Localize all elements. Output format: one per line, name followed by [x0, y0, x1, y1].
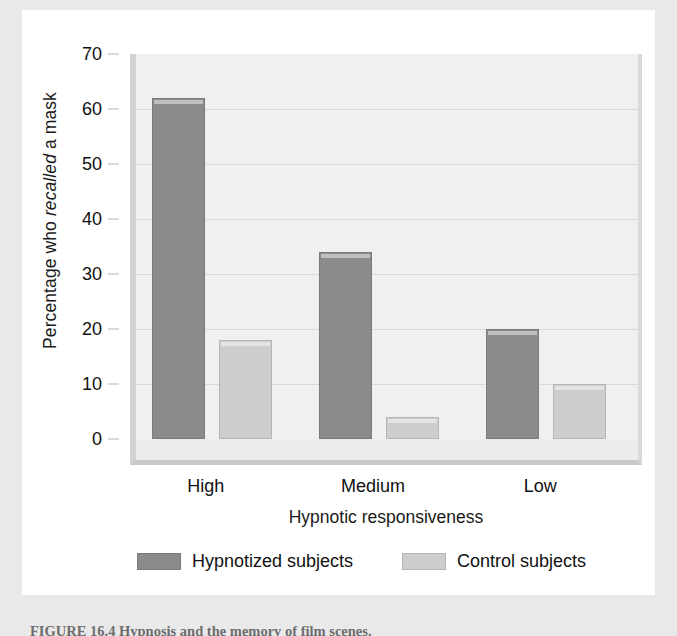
gridline [136, 274, 638, 275]
plot-area [130, 54, 642, 439]
y-axis-title-italic: recalled [40, 154, 60, 216]
y-axis-tick-label: 0 [58, 429, 102, 450]
y-axis-tick-mark [108, 329, 119, 330]
gridline [136, 329, 638, 330]
y-axis-tick-mark [108, 164, 119, 165]
bar-highlight [488, 331, 537, 335]
x-axis-category-labels: HighMediumLow [130, 476, 642, 502]
y-axis-tick-mark [108, 219, 119, 220]
y-axis-tick-mark [108, 384, 119, 385]
bar-highlight [555, 386, 604, 390]
figure-card: Percentage who recalled a mask 010203040… [22, 10, 655, 595]
bar-medium-hypnotized [319, 252, 372, 439]
y-axis-tick-label: 50 [58, 154, 102, 175]
legend-label: Control subjects [457, 551, 586, 572]
gridline [136, 164, 638, 165]
bar-highlight [221, 342, 270, 346]
y-axis-tick-mark [108, 54, 119, 55]
y-axis-tick-label: 60 [58, 99, 102, 120]
plot-inner [136, 54, 638, 439]
y-axis-tick-label: 30 [58, 264, 102, 285]
y-axis-title-prefix: Percentage who [40, 216, 60, 349]
bar-highlight [388, 419, 437, 423]
bar-high-control [219, 340, 272, 439]
gridline [136, 219, 638, 220]
x-axis-tick-label-high: High [187, 476, 224, 497]
bar-low-hypnotized [486, 329, 539, 439]
y-axis-title-suffix: a mask [40, 92, 60, 154]
bar-low-control [553, 384, 606, 439]
legend-swatch-icon [402, 553, 446, 570]
plot-base-plinth [130, 439, 642, 465]
x-axis-tick-label-low: Low [524, 476, 557, 497]
chart-legend: Hypnotized subjectsControl subjects [82, 551, 622, 581]
y-axis-tick-label: 10 [58, 374, 102, 395]
bar-high-hypnotized [152, 98, 205, 439]
bar-chart: Percentage who recalled a mask 010203040… [22, 10, 655, 595]
legend-item-hypnotized-subjects: Hypnotized subjects [137, 551, 353, 572]
y-axis-tick-label: 20 [58, 319, 102, 340]
gridline [136, 109, 638, 110]
bar-highlight [321, 254, 370, 258]
x-axis-tick-label-medium: Medium [341, 476, 405, 497]
bar-medium-control [386, 417, 439, 439]
legend-label: Hypnotized subjects [192, 551, 353, 572]
x-axis-title: Hypnotic responsiveness [130, 507, 642, 528]
legend-swatch-icon [137, 553, 181, 570]
y-axis-tick-mark [108, 274, 119, 275]
y-axis-tick-label: 40 [58, 209, 102, 230]
bar-highlight [154, 100, 203, 104]
y-axis-ticks: 010203040506070 [58, 10, 102, 595]
y-axis-tick-mark [108, 439, 119, 440]
legend-item-control-subjects: Control subjects [402, 551, 586, 572]
y-axis-tick-label: 70 [58, 44, 102, 65]
figure-caption: FIGURE 16.4 Hypnosis and the memory of f… [30, 623, 650, 636]
y-axis-tick-mark [108, 109, 119, 110]
